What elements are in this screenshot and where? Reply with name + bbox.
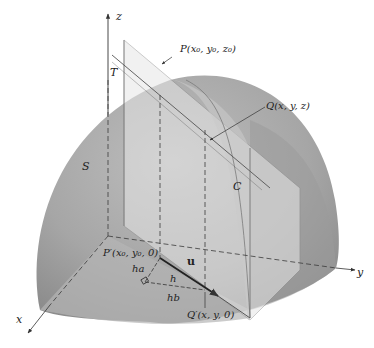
segment-hb-label: hb [167,292,180,303]
z-axis-label: z [115,10,122,23]
surface-s-label: S [82,160,90,173]
point-q-label: Q(x, y, z) [266,100,310,111]
vector-u-label: u [187,255,195,268]
diagram-figure: z y x T S C P(x₀, y₀, z₀) Q(x, y, z) P′(… [0,0,374,348]
point-q-prime-label: Q′(x, y, 0) [187,309,234,320]
point-p-prime-label: P′(x₀, y₀, 0) [102,247,158,258]
segment-h-label: h [170,273,176,284]
curve-c-label: C [233,180,242,193]
x-axis-label: x [16,313,23,326]
x-axis [28,305,50,333]
y-axis [336,268,355,270]
y-axis-label: y [356,266,364,279]
segment-ha-label: ha [132,263,144,274]
plane-t-label: T [110,66,119,79]
point-p-label: P(x₀, y₀, z₀) [179,43,236,54]
p-pointer [162,57,172,64]
